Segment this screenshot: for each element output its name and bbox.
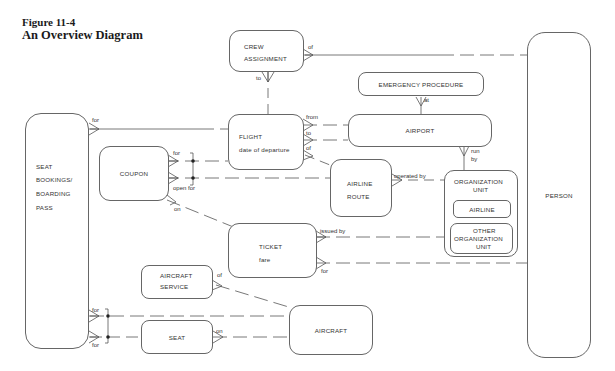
entity-label: CREW <box>244 43 264 50</box>
rel-label-run-by: run by <box>471 147 480 163</box>
entity-label: COUPON <box>120 170 148 177</box>
rel-label-open-for: open for <box>173 185 195 191</box>
entity-label: ROUTE <box>347 193 370 200</box>
entity-label: AIRPORT <box>406 127 435 134</box>
entity-coupon[interactable]: COUPON <box>99 146 169 201</box>
rel-label-coupon-for: for <box>173 150 180 156</box>
rel-label-issued-by: issued by <box>320 228 345 234</box>
entity-label: EMERGENCY PROCEDURE <box>379 81 464 88</box>
entity-flight[interactable]: FLIGHT date of departure <box>228 114 304 170</box>
entity-label: UNIT <box>473 186 488 193</box>
rel-label-service-of: of <box>217 272 222 278</box>
entity-attribute: fare <box>259 256 270 263</box>
subtype-label: ORGANIZATION <box>454 235 503 242</box>
rel-label-of: of <box>306 145 311 151</box>
entity-airport[interactable]: AIRPORT <box>348 114 492 147</box>
entity-label: BOARDING <box>36 190 71 197</box>
entity-label: SEAT <box>169 334 186 341</box>
rel-label-coupon-on: on <box>174 206 181 212</box>
subtype-airline[interactable]: AIRLINE <box>453 200 511 218</box>
subtype-label: UNIT <box>476 243 491 250</box>
rel-label-by: by <box>471 156 477 162</box>
entity-emergency-procedure[interactable]: EMERGENCY PROCEDURE <box>358 72 484 96</box>
entity-aircraft[interactable]: AIRCRAFT <box>289 305 373 355</box>
rel-label-operated-by: operated by <box>394 173 426 179</box>
rel-label-to: to <box>306 130 311 136</box>
rel-label-bookings-for-aircraft: for <box>92 307 99 313</box>
entity-label: AIRCRAFT <box>160 272 193 279</box>
entity-label: FLIGHT <box>239 133 262 140</box>
rel-label-crew-of: of <box>308 44 313 50</box>
rel-label-at: at <box>424 97 429 103</box>
entity-crew-assignment[interactable]: CREW ASSIGNMENT <box>229 30 304 72</box>
entity-aircraft-service[interactable]: AIRCRAFT SERVICE <box>141 265 213 299</box>
entity-label: BOOKINGS/ <box>36 176 73 183</box>
entity-label: AIRCRAFT <box>315 327 348 334</box>
rel-label-bookings-for-seat: for <box>92 342 99 348</box>
entity-seat-bookings[interactable]: SEAT BOOKINGS/ BOARDING PASS <box>25 113 89 349</box>
entity-ticket[interactable]: TICKET fare <box>228 223 317 278</box>
entity-organization-unit[interactable]: ORGANIZATION UNIT AIRLINE OTHER ORGANIZA… <box>444 170 518 257</box>
subtype-other-organization-unit[interactable]: OTHER ORGANIZATION UNIT <box>450 223 513 254</box>
subtype-label: OTHER <box>473 227 496 234</box>
entity-label: PERSON <box>545 192 572 199</box>
entity-airline-route[interactable]: AIRLINE ROUTE <box>330 159 392 217</box>
entity-label: ASSIGNMENT <box>244 55 287 62</box>
rel-label-ticket-for: for <box>321 268 328 274</box>
rel-label-from: from <box>306 114 318 120</box>
rel-label-seat-on: on <box>216 328 223 334</box>
entity-label: AIRLINE <box>347 180 372 187</box>
entity-person[interactable]: PERSON <box>527 32 591 358</box>
entity-attribute: date of departure <box>239 146 290 153</box>
entity-label: PASS <box>36 204 53 211</box>
subtype-label: AIRLINE <box>469 206 494 213</box>
rel-label-run: run <box>471 148 480 154</box>
entity-label: ORGANIZATION <box>454 178 503 185</box>
entity-seat[interactable]: SEAT <box>141 320 213 354</box>
entity-label: TICKET <box>259 243 282 250</box>
rel-label-crew-to: to <box>256 75 261 81</box>
entity-label: SERVICE <box>160 283 188 290</box>
rel-label-bookings-for-flight: for <box>92 117 99 123</box>
entity-label: SEAT <box>36 163 53 170</box>
